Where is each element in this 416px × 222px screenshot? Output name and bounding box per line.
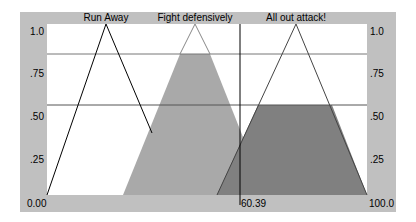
label-all-out-attack: All out attack! — [266, 12, 326, 23]
y-tick-right-1: 1.0 — [370, 26, 384, 37]
y-tick-left-75: .75 — [30, 68, 44, 79]
y-tick-right-50: .50 — [370, 111, 384, 122]
x-tick-max: 100.0 — [369, 198, 394, 209]
label-fight-defensively: Fight defensively — [157, 12, 232, 23]
y-tick-left-50: .50 — [30, 111, 44, 122]
fuzzy-membership-chart: Run Away Fight defensively All out attac… — [0, 0, 416, 222]
x-tick-crisp: 60.39 — [241, 198, 266, 209]
y-tick-left-25: .25 — [30, 154, 44, 165]
y-tick-right-25: .25 — [370, 154, 384, 165]
y-tick-left-1: 1.0 — [30, 26, 44, 37]
y-tick-right-75: .75 — [370, 68, 384, 79]
label-run-away: Run Away — [84, 12, 129, 23]
x-tick-min: 0.00 — [27, 198, 47, 209]
